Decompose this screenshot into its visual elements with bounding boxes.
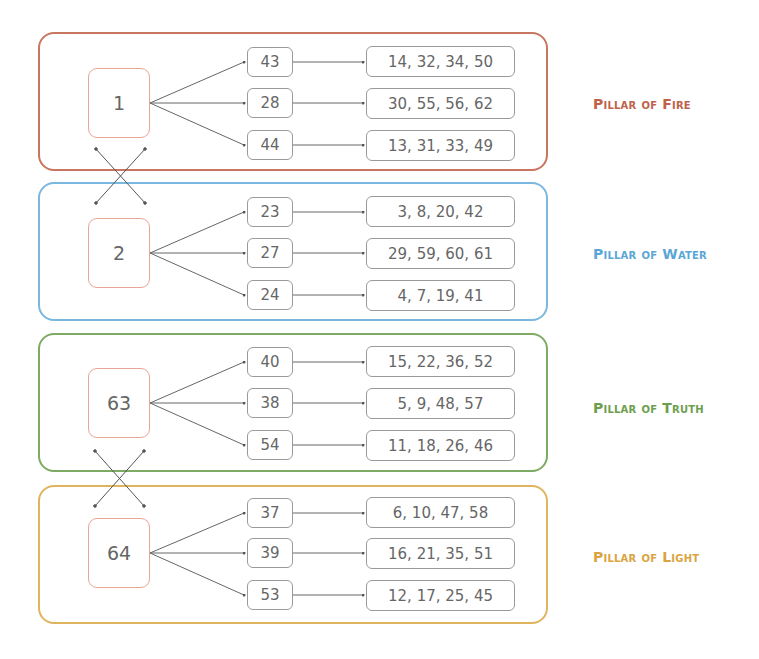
branch-node: 37 <box>247 498 293 528</box>
branch-node: 28 <box>247 88 293 118</box>
pillar-label-fire: Pillar of Fire <box>593 96 691 112</box>
pillar-label-truth: Pillar of Truth <box>593 400 704 416</box>
values-box: 15, 22, 36, 52 <box>366 346 515 377</box>
hub-node: 2 <box>88 218 150 288</box>
values-box: 3, 8, 20, 42 <box>366 196 515 227</box>
branch-node: 44 <box>247 130 293 160</box>
branch-node: 43 <box>247 47 293 77</box>
branch-node: 23 <box>247 197 293 227</box>
branch-node: 40 <box>247 347 293 377</box>
values-box: 13, 31, 33, 49 <box>366 130 515 161</box>
pillar-label-light: Pillar of Light <box>593 549 699 565</box>
values-box: 5, 9, 48, 57 <box>366 388 515 419</box>
hub-node: 63 <box>88 368 150 438</box>
values-box: 16, 21, 35, 51 <box>366 538 515 569</box>
values-box: 11, 18, 26, 46 <box>366 430 515 461</box>
values-box: 12, 17, 25, 45 <box>366 580 515 611</box>
hub-node: 64 <box>88 518 150 588</box>
values-box: 30, 55, 56, 62 <box>366 88 515 119</box>
pillar-label-water: Pillar of Water <box>593 246 707 262</box>
values-box: 29, 59, 60, 61 <box>366 238 515 269</box>
values-box: 6, 10, 47, 58 <box>366 497 515 528</box>
branch-node: 24 <box>247 280 293 310</box>
branch-node: 54 <box>247 430 293 460</box>
values-box: 4, 7, 19, 41 <box>366 280 515 311</box>
values-box: 14, 32, 34, 50 <box>366 46 515 77</box>
branch-node: 39 <box>247 538 293 568</box>
branch-node: 27 <box>247 238 293 268</box>
branch-node: 53 <box>247 580 293 610</box>
swap-cross-icon <box>94 148 147 508</box>
hub-node: 1 <box>88 68 150 138</box>
branch-node: 38 <box>247 388 293 418</box>
